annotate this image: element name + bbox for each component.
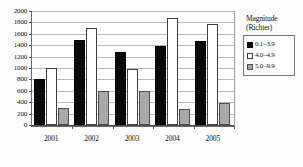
bar xyxy=(127,69,138,125)
y-tickmark xyxy=(29,102,32,103)
y-tickmark xyxy=(29,57,32,58)
bar xyxy=(98,91,109,125)
legend-entry: 5.0–9.9 xyxy=(247,61,291,72)
bar xyxy=(167,18,178,125)
x-tick-label: 2005 xyxy=(193,134,233,143)
bar xyxy=(207,24,218,125)
legend-entry: 4.0–4.9 xyxy=(247,50,291,61)
legend-swatch-icon xyxy=(247,53,253,59)
y-tickmark xyxy=(29,114,32,115)
bar xyxy=(115,52,126,125)
bars-layer xyxy=(32,12,234,125)
bar xyxy=(34,79,45,125)
legend-title-line-1: Magnitude xyxy=(246,14,301,23)
x-tickmark xyxy=(234,126,235,129)
legend-swatch-icon xyxy=(247,42,253,48)
y-tickmark xyxy=(29,125,32,126)
bar xyxy=(58,108,69,125)
x-tick-label: 2001 xyxy=(31,134,71,143)
y-tick-label: 200 xyxy=(17,110,27,117)
y-tickmark xyxy=(29,22,32,23)
bar xyxy=(155,46,166,125)
x-axis-tick-labels: 20012002200320042005 xyxy=(31,134,235,148)
bar-group xyxy=(115,12,150,125)
plot-area xyxy=(31,11,235,127)
bar-group xyxy=(195,12,230,125)
legend-title-line-2: (Richter) xyxy=(246,23,301,32)
bar xyxy=(219,103,230,125)
y-axis-tick-labels: 0200400600800100012001400160018002000 xyxy=(0,11,29,127)
x-tick-label: 2003 xyxy=(112,134,152,143)
y-tick-label: 1800 xyxy=(14,19,27,26)
legend-title: Magnitude (Richter) xyxy=(246,14,301,32)
legend-swatch-icon xyxy=(247,64,253,70)
bar-group xyxy=(155,12,190,125)
x-axis-baseline xyxy=(32,125,234,126)
bar xyxy=(46,68,57,125)
y-tickmark xyxy=(29,45,32,46)
y-tickmark xyxy=(29,68,32,69)
earthquake-magnitude-bar-chart: 0200400600800100012001400160018002000 20… xyxy=(0,0,303,167)
bar xyxy=(139,91,150,125)
legend-label: 4.0–4.9 xyxy=(255,51,275,60)
legend-label: 0.1–3.9 xyxy=(255,40,275,49)
y-tick-label: 1200 xyxy=(14,53,27,60)
legend-label: 5.0–9.9 xyxy=(255,62,275,71)
y-tickmark xyxy=(29,79,32,80)
legend-entry: 0.1–3.9 xyxy=(247,39,291,50)
y-tick-label: 1600 xyxy=(14,30,27,37)
x-tickmark xyxy=(153,126,154,129)
x-tickmark xyxy=(72,126,73,129)
y-tickmark xyxy=(29,11,32,12)
x-tick-label: 2004 xyxy=(152,134,192,143)
legend: Magnitude (Richter) 0.1–3.94.0–4.95.0–9.… xyxy=(243,14,301,76)
y-tick-label: 1000 xyxy=(14,65,27,72)
bar xyxy=(195,41,206,125)
y-tickmark xyxy=(29,34,32,35)
legend-box: 0.1–3.94.0–4.95.0–9.9 xyxy=(243,35,295,76)
bar-group xyxy=(74,12,109,125)
y-tick-label: 400 xyxy=(17,99,27,106)
y-tick-label: 1400 xyxy=(14,42,27,49)
bar xyxy=(74,40,85,126)
x-tickmark xyxy=(194,126,195,129)
x-tickmark xyxy=(113,126,114,129)
bar xyxy=(86,28,97,125)
bar xyxy=(179,109,190,125)
x-tick-label: 2002 xyxy=(71,134,111,143)
y-tick-label: 800 xyxy=(17,76,27,83)
y-tick-label: 2000 xyxy=(14,8,27,15)
y-tickmark xyxy=(29,91,32,92)
bar-group xyxy=(34,12,69,125)
y-tick-label: 0 xyxy=(24,122,27,129)
y-tick-label: 600 xyxy=(17,87,27,94)
